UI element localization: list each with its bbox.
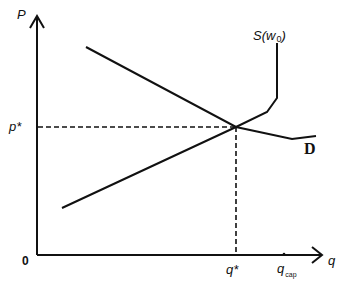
equilibrium-quantity-label: q* [226,263,238,276]
origin-label: 0 [22,255,29,267]
demand-curve-label: D [304,141,316,157]
equilibrium-price-label: p* [9,120,21,133]
capacity-label-sub: cap [285,271,296,278]
capacity-tick [283,253,286,256]
y-axis-label: P [17,8,26,21]
supply-label-main: S(w [253,28,275,43]
supply-curve-label: S(w0) [253,29,286,42]
supply-label-close: ) [281,28,285,43]
capacity-label-main: q [277,261,284,276]
demand-curve [86,47,316,139]
x-axis-label: q [328,254,335,267]
supply-label-sub: 0 [276,34,281,44]
diagram-canvas [0,0,340,288]
supply-curve [62,43,277,208]
capacity-label: qcap [277,262,297,275]
